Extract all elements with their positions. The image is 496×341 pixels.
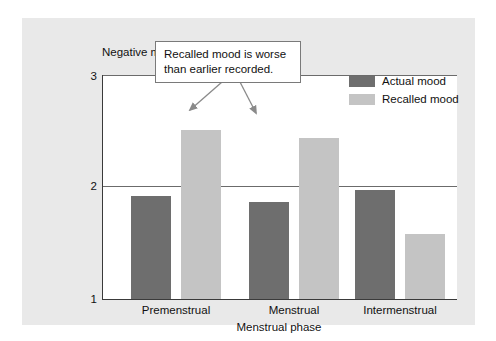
- chart-figure: Negative mood 1 2 3 Premenstrual Menstru…: [0, 0, 496, 341]
- legend-label-actual: Actual mood: [382, 75, 446, 87]
- x-axis-title: Menstrual phase: [102, 321, 456, 333]
- bar-recalled-intermenstrual[interactable]: [405, 234, 445, 299]
- legend-label-recalled: Recalled mood: [382, 93, 459, 105]
- y-tick-label-3: 3: [91, 70, 97, 82]
- x-tick-label-menstrual: Menstrual: [269, 304, 320, 316]
- y-tick-label-1: 1: [91, 293, 97, 305]
- annotation-callout: Recalled mood is worse than earlier reco…: [155, 41, 301, 83]
- legend-swatch-icon-recalled: [349, 94, 375, 105]
- bar-actual-premenstrual[interactable]: [131, 196, 171, 299]
- bar-actual-intermenstrual[interactable]: [355, 190, 395, 299]
- x-tick-label-intermenstrual: Intermenstrual: [363, 304, 437, 316]
- gridline-y-2: [103, 186, 457, 187]
- legend-item-recalled-mood[interactable]: Recalled mood: [349, 93, 459, 105]
- bar-actual-menstrual[interactable]: [249, 202, 289, 299]
- bar-recalled-premenstrual[interactable]: [181, 130, 221, 299]
- y-tick-label-2: 2: [91, 180, 97, 192]
- bar-recalled-menstrual[interactable]: [299, 138, 339, 299]
- plot-area: 1 2 3 Premenstrual Menstrual Intermenstr…: [102, 75, 457, 300]
- legend-swatch-icon-actual: [349, 76, 375, 87]
- legend-item-actual-mood[interactable]: Actual mood: [349, 75, 459, 87]
- chart-legend: Actual mood Recalled mood: [349, 75, 459, 105]
- x-tick-label-premenstrual: Premenstrual: [142, 304, 210, 316]
